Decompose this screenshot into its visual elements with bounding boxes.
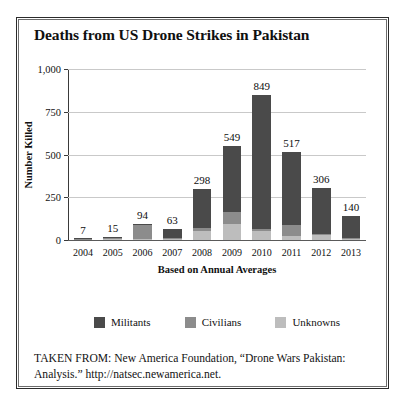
page-title: Deaths from US Drone Strikes in Pakistan bbox=[34, 26, 309, 44]
y-axis-tick-mark bbox=[64, 155, 68, 156]
chart-legend: MilitantsCiviliansUnknowns bbox=[68, 316, 366, 328]
bar-segment-unknowns bbox=[312, 235, 330, 240]
bar-value-label: 63 bbox=[167, 214, 178, 226]
x-axis-tick-label: 2010 bbox=[252, 247, 272, 258]
bar-segment-militants bbox=[312, 188, 330, 234]
bar-value-label: 94 bbox=[137, 209, 148, 221]
x-axis-tick-label: 2009 bbox=[222, 247, 242, 258]
bar-group bbox=[282, 152, 300, 240]
bar-group bbox=[74, 238, 92, 240]
bar-group bbox=[193, 189, 211, 240]
bar-value-label: 849 bbox=[253, 80, 270, 92]
bar-segment-unknowns bbox=[252, 231, 270, 240]
legend-swatch-icon bbox=[185, 317, 196, 328]
bar-group bbox=[133, 224, 151, 240]
bar-group bbox=[103, 237, 121, 240]
figure-inner: Deaths from US Drone Strikes in Pakistan… bbox=[20, 21, 385, 385]
y-axis-tick-label: 1,000 bbox=[37, 64, 61, 75]
bar-segment-unknowns bbox=[133, 239, 151, 240]
y-axis-tick-label: 250 bbox=[45, 192, 61, 203]
bar-value-label: 140 bbox=[343, 201, 360, 213]
y-axis-tick-label: 750 bbox=[45, 106, 61, 117]
bar-segment-unknowns bbox=[163, 239, 181, 240]
bar-value-label: 7 bbox=[80, 224, 86, 236]
bar-segment-militants bbox=[193, 189, 211, 228]
x-axis-tick-label: 2011 bbox=[282, 247, 302, 258]
bar-segment-civilians bbox=[74, 239, 92, 240]
x-axis-caption: Based on Annual Averages bbox=[68, 264, 366, 275]
x-axis-tick-label: 2013 bbox=[341, 247, 361, 258]
legend-swatch-icon bbox=[275, 317, 286, 328]
legend-item: Unknowns bbox=[275, 316, 340, 328]
chart-plot-area: Number Killed 02505007501,000 7200415200… bbox=[68, 69, 366, 241]
figure-frame: Deaths from US Drone Strikes in Pakistan… bbox=[16, 17, 389, 389]
legend-label: Militants bbox=[111, 316, 151, 328]
bar-segment-civilians bbox=[223, 212, 241, 224]
y-axis-tick-mark bbox=[64, 69, 68, 70]
legend-label: Unknowns bbox=[292, 316, 340, 328]
bar-value-label: 298 bbox=[194, 174, 211, 186]
bar-segment-militants bbox=[223, 146, 241, 212]
bar-segment-militants bbox=[252, 95, 270, 229]
y-axis-tick-label: 0 bbox=[56, 235, 61, 246]
bar-segment-unknowns bbox=[103, 239, 121, 240]
gridline bbox=[68, 155, 366, 156]
bar-value-label: 15 bbox=[107, 222, 118, 234]
bar-value-label: 517 bbox=[283, 137, 300, 149]
bar-segment-militants bbox=[163, 229, 181, 238]
y-axis-label: Number Killed bbox=[23, 121, 34, 188]
bar-group bbox=[252, 95, 270, 240]
y-axis-tick-label: 500 bbox=[45, 149, 61, 160]
x-axis-tick-label: 2007 bbox=[162, 247, 182, 258]
legend-item: Civilians bbox=[185, 316, 242, 328]
bar-segment-unknowns bbox=[193, 231, 211, 240]
legend-item: Militants bbox=[94, 316, 151, 328]
x-axis-tick-label: 2008 bbox=[192, 247, 212, 258]
bar-group bbox=[163, 229, 181, 240]
legend-swatch-icon bbox=[94, 317, 105, 328]
bar-segment-civilians bbox=[282, 225, 300, 236]
bar-group bbox=[223, 146, 241, 240]
bar-segment-militants bbox=[342, 216, 360, 238]
bar-value-label: 306 bbox=[313, 173, 330, 185]
bar-segment-unknowns bbox=[342, 239, 360, 240]
x-axis-tick-label: 2004 bbox=[73, 247, 93, 258]
y-axis-tick-mark bbox=[64, 112, 68, 113]
x-axis-tick-label: 2006 bbox=[133, 247, 153, 258]
x-axis-line bbox=[68, 240, 366, 241]
legend-label: Civilians bbox=[202, 316, 242, 328]
bar-segment-unknowns bbox=[282, 236, 300, 240]
y-axis-tick-mark bbox=[64, 240, 68, 241]
bar-value-label: 549 bbox=[224, 131, 241, 143]
gridline bbox=[68, 69, 366, 70]
x-axis-tick-label: 2012 bbox=[311, 247, 331, 258]
bar-segment-unknowns bbox=[223, 224, 241, 240]
y-axis-tick-mark bbox=[64, 197, 68, 198]
bar-segment-militants bbox=[282, 152, 300, 225]
bar-group bbox=[312, 188, 330, 240]
gridline bbox=[68, 112, 366, 113]
bar-segment-civilians bbox=[133, 225, 151, 239]
x-axis-tick-label: 2005 bbox=[103, 247, 123, 258]
bar-group bbox=[342, 216, 360, 240]
source-note: TAKEN FROM: New America Foundation, “Dro… bbox=[34, 351, 364, 384]
